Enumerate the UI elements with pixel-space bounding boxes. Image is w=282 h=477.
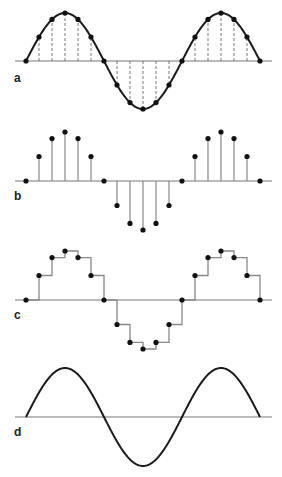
sampling-diagram: a b c d xyxy=(0,0,282,477)
sample-dot xyxy=(166,322,171,327)
panel-b-discrete-samples xyxy=(15,129,272,232)
sample-dot xyxy=(49,255,54,260)
sample-dot xyxy=(101,297,106,302)
sample-dot xyxy=(257,178,262,183)
sample-dot xyxy=(257,297,262,302)
sample-dot xyxy=(244,154,249,159)
panel-label-d: d xyxy=(14,425,21,439)
sample-dot xyxy=(101,178,106,183)
sample-dot xyxy=(140,346,145,351)
sample-dot xyxy=(75,255,80,260)
sample-dot xyxy=(88,273,93,278)
sample-dot xyxy=(75,17,80,22)
sample-dot xyxy=(153,100,158,105)
panel-label-b: b xyxy=(14,189,21,203)
sample-dot xyxy=(192,154,197,159)
sample-dot xyxy=(192,273,197,278)
panel-d-reconstructed-sine xyxy=(15,368,272,466)
sample-dot xyxy=(36,273,41,278)
sample-dot xyxy=(62,129,67,134)
sample-dot xyxy=(101,58,106,63)
sample-dot xyxy=(127,100,132,105)
sample-dot xyxy=(114,82,119,87)
sample-dot xyxy=(205,255,210,260)
sample-dot xyxy=(62,10,67,15)
sample-dot xyxy=(88,154,93,159)
sample-dot xyxy=(127,221,132,226)
sample-dot xyxy=(36,34,41,39)
sample-dot xyxy=(153,221,158,226)
sample-dot xyxy=(49,17,54,22)
sample-dot xyxy=(257,58,262,63)
panel-a-sampled-sine xyxy=(15,10,272,111)
sample-dot xyxy=(49,136,54,141)
sample-dot xyxy=(75,136,80,141)
sample-dot xyxy=(244,273,249,278)
sample-dot xyxy=(36,154,41,159)
sample-dot xyxy=(192,34,197,39)
sample-dot xyxy=(153,340,158,345)
panel-label-a: a xyxy=(14,71,21,85)
sample-dot xyxy=(114,322,119,327)
sample-dot xyxy=(244,34,249,39)
sample-dot xyxy=(179,178,184,183)
sample-dot xyxy=(179,297,184,302)
sample-dot xyxy=(23,297,28,302)
sample-dot xyxy=(23,178,28,183)
sample-dot xyxy=(231,255,236,260)
sample-dot xyxy=(205,136,210,141)
sample-dot xyxy=(140,106,145,111)
panel-c-sample-and-hold xyxy=(15,248,272,351)
sample-dot xyxy=(218,248,223,253)
sample-dot xyxy=(127,340,132,345)
sample-dot xyxy=(62,248,67,253)
sample-dot xyxy=(231,17,236,22)
sample-dot xyxy=(114,203,119,208)
sample-dot xyxy=(231,136,236,141)
sample-dot xyxy=(23,58,28,63)
sample-dot xyxy=(166,203,171,208)
sample-dot xyxy=(218,10,223,15)
sample-dot xyxy=(166,82,171,87)
sample-dot xyxy=(88,34,93,39)
sample-dot xyxy=(205,17,210,22)
sample-dot xyxy=(218,129,223,134)
panel-label-c: c xyxy=(14,308,21,322)
sample-dot xyxy=(179,58,184,63)
sample-dot xyxy=(140,227,145,232)
